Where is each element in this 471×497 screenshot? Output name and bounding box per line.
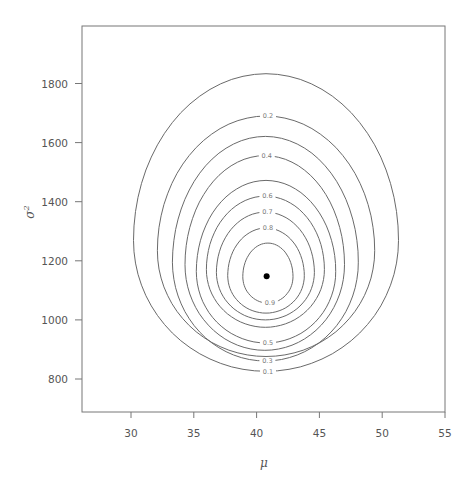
x-tick-label: 55: [438, 427, 451, 439]
contour-label-0.8: 0.8: [263, 224, 273, 232]
contour-label-0.6: 0.6: [262, 192, 272, 200]
contour-label-0.9: 0.9: [265, 299, 275, 307]
y-axis-title-superscript: 2: [22, 205, 31, 211]
x-tick-label: 45: [313, 427, 326, 439]
contour-line-0.9: [243, 243, 293, 303]
contour-label-0.1: 0.1: [263, 368, 273, 376]
contour-label-0.7: 0.7: [262, 208, 272, 216]
contour-label-0.5: 0.5: [263, 339, 273, 347]
y-tick-label: 1600: [41, 137, 68, 149]
contour-line-0.4: [185, 156, 345, 351]
y-axis-title: σ2: [22, 205, 37, 218]
y-tick-label: 1800: [41, 78, 68, 90]
y-tick-label: 1200: [41, 255, 68, 267]
y-tick-label: 1000: [41, 314, 68, 326]
y-tick-label: 800: [48, 373, 68, 385]
y-tick-label: 1400: [41, 196, 68, 208]
x-tick-label: 40: [250, 427, 263, 439]
x-tick-label: 50: [376, 427, 389, 439]
mode-point-marker: [264, 273, 270, 279]
x-tick-label: 30: [124, 427, 137, 439]
y-axis: 80010001200140016001800: [41, 78, 82, 386]
contour-label-0.3: 0.3: [262, 357, 272, 365]
x-axis-title: μ: [260, 456, 268, 470]
contour-chart: 0.10.20.30.40.50.60.70.80.9 303540455055…: [0, 0, 471, 497]
contour-label-0.2: 0.2: [263, 112, 273, 120]
x-tick-label: 35: [187, 427, 200, 439]
plot-frame: [82, 26, 445, 412]
contour-label-0.4: 0.4: [262, 152, 272, 160]
x-axis: 303540455055: [124, 412, 451, 439]
